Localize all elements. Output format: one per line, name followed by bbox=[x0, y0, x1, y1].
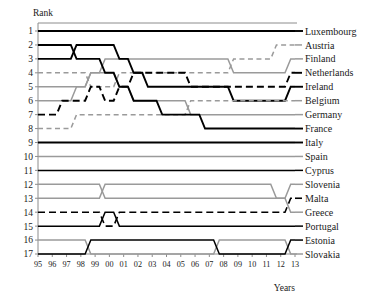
series-line-netherlands bbox=[38, 73, 295, 115]
series-label-belgium: Belgium bbox=[305, 95, 340, 106]
x-tick-label: 10 bbox=[248, 260, 256, 269]
series-label-slovakia: Slovakia bbox=[305, 249, 341, 260]
series-line-germany bbox=[38, 73, 295, 115]
series-line-portugal bbox=[38, 212, 295, 226]
x-tick-label: 95 bbox=[34, 260, 42, 269]
series-line-slovenia bbox=[38, 184, 295, 198]
x-tick-label: 06 bbox=[191, 260, 199, 269]
y-tick-label-layer: 1234567891011121314151617 bbox=[24, 26, 34, 259]
series-line-slovakia bbox=[38, 240, 295, 254]
series-label-slovenia: Slovenia bbox=[305, 179, 341, 190]
series-label-layer: LuxembourgAustriaFinlandNetherlandsIrela… bbox=[305, 26, 356, 260]
x-tick-label: 99 bbox=[91, 260, 99, 269]
y-tick-label: 12 bbox=[24, 180, 34, 190]
x-tick-label: 07 bbox=[205, 260, 213, 269]
x-tick-label: 08 bbox=[220, 260, 228, 269]
series-label-portugal: Portugal bbox=[305, 221, 339, 232]
axis-layer bbox=[35, 23, 297, 257]
x-tick-label: 02 bbox=[134, 260, 142, 269]
series-label-ireland: Ireland bbox=[305, 81, 333, 92]
y-tick-label: 7 bbox=[28, 110, 33, 120]
y-tick-label: 4 bbox=[28, 68, 33, 78]
series-layer bbox=[38, 31, 303, 254]
x-tick-label: 03 bbox=[148, 260, 156, 269]
x-tick-label: 96 bbox=[48, 260, 56, 269]
series-label-spain: Spain bbox=[305, 151, 328, 162]
series-label-cyprus: Cyprus bbox=[305, 165, 334, 176]
y-tick-label: 15 bbox=[24, 222, 34, 232]
y-tick-label: 3 bbox=[28, 54, 33, 64]
y-tick-label: 6 bbox=[28, 96, 33, 106]
x-tick-label: 09 bbox=[234, 260, 242, 269]
x-tick-label: 05 bbox=[177, 260, 185, 269]
series-label-germany: Germany bbox=[305, 109, 342, 120]
x-tick-label: 04 bbox=[162, 260, 170, 269]
y-tick-label: 2 bbox=[28, 40, 33, 50]
x-tick-label: 01 bbox=[120, 260, 128, 269]
series-label-netherlands: Netherlands bbox=[305, 67, 353, 78]
series-line-malta bbox=[38, 198, 295, 226]
y-tick-label: 5 bbox=[28, 82, 33, 92]
x-axis-title: Years bbox=[274, 283, 296, 293]
series-label-finland: Finland bbox=[305, 53, 336, 64]
y-tick-label: 11 bbox=[24, 166, 33, 176]
series-label-italy: Italy bbox=[305, 137, 323, 148]
y-tick-label: 10 bbox=[24, 152, 34, 162]
y-tick-label: 9 bbox=[28, 138, 33, 148]
x-tick-label-layer: 95969798990001020304050607080910111213 bbox=[34, 260, 299, 269]
y-tick-label: 1 bbox=[28, 26, 33, 36]
series-label-greece: Greece bbox=[305, 207, 334, 218]
x-tick-label: 12 bbox=[277, 260, 285, 269]
y-tick-label: 14 bbox=[24, 208, 34, 218]
series-label-austria: Austria bbox=[305, 40, 335, 51]
series-label-estonia: Estonia bbox=[305, 235, 336, 246]
series-line-austria bbox=[38, 45, 295, 87]
x-tick-label: 98 bbox=[77, 260, 85, 269]
series-label-luxembourg: Luxembourg bbox=[305, 26, 356, 37]
x-tick-label: 00 bbox=[105, 260, 113, 269]
y-tick-label: 17 bbox=[24, 249, 34, 259]
bump-chart: 1234567891011121314151617 95969798990001… bbox=[0, 0, 374, 299]
x-tick-label: 11 bbox=[262, 260, 270, 269]
y-tick-label: 16 bbox=[24, 235, 34, 245]
series-label-malta: Malta bbox=[305, 193, 329, 204]
x-tick-label: 13 bbox=[291, 260, 299, 269]
series-label-france: France bbox=[305, 123, 333, 134]
x-tick-label: 97 bbox=[62, 260, 70, 269]
y-tick-label: 13 bbox=[24, 194, 34, 204]
series-line-finland bbox=[38, 59, 295, 101]
y-tick-label: 8 bbox=[28, 124, 33, 134]
y-axis-title: Rank bbox=[33, 8, 53, 18]
series-line-estonia bbox=[38, 240, 295, 254]
chart-canvas: 1234567891011121314151617 95969798990001… bbox=[0, 0, 374, 299]
